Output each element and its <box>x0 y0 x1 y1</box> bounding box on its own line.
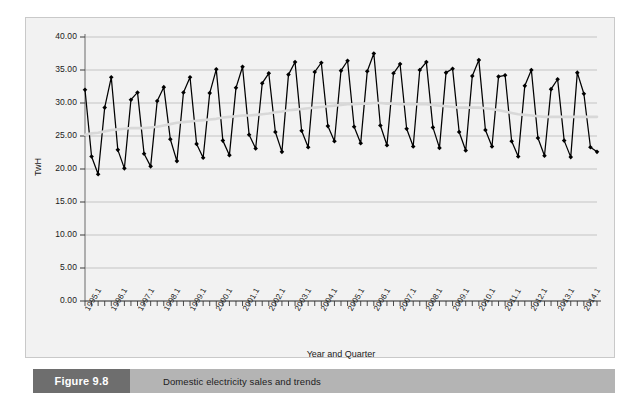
data-point <box>148 164 153 169</box>
data-point <box>89 154 94 159</box>
data-point <box>404 126 409 131</box>
data-point <box>352 124 357 129</box>
data-point <box>562 138 567 143</box>
data-point <box>483 128 488 133</box>
data-point <box>522 84 527 89</box>
data-point <box>122 166 127 171</box>
data-point <box>326 124 331 129</box>
figure-caption-text: Domestic electricity sales and trends <box>130 369 615 393</box>
data-point <box>568 155 573 160</box>
data-point <box>582 91 587 96</box>
data-point <box>207 91 212 96</box>
data-point <box>372 51 377 56</box>
data-point <box>575 70 580 75</box>
data-point <box>286 72 291 77</box>
y-tick-label: 25.00 <box>26 130 77 140</box>
data-point <box>253 146 258 151</box>
data-point <box>529 68 534 73</box>
data-point <box>378 123 383 128</box>
data-point <box>273 130 278 135</box>
figure-number: Figure 9.8 <box>33 369 130 393</box>
data-point <box>83 88 88 93</box>
data-point <box>168 137 173 142</box>
data-point <box>109 75 114 80</box>
data-point <box>280 150 285 155</box>
y-tick-label: 5.00 <box>26 262 77 272</box>
data-point <box>542 154 547 159</box>
data-point <box>503 73 508 78</box>
y-tick-label: 40.00 <box>26 31 77 41</box>
data-point <box>299 128 304 133</box>
chart-frame: 0.005.0010.0015.0020.0025.0030.0035.0040… <box>25 17 615 358</box>
data-point <box>161 85 166 90</box>
x-axis-title: Year and Quarter <box>85 349 597 359</box>
figure-caption-bar: Figure 9.8 Domestic electricity sales an… <box>33 369 615 393</box>
data-point <box>516 154 521 159</box>
data-point <box>477 58 482 63</box>
data-point <box>142 152 147 157</box>
data-point <box>496 74 501 79</box>
data-point <box>221 138 226 143</box>
data-point <box>181 90 186 95</box>
data-point <box>411 144 416 149</box>
data-point <box>227 153 232 158</box>
data-point <box>463 148 468 153</box>
y-tick-label: 30.00 <box>26 97 77 107</box>
data-point <box>431 125 436 130</box>
data-point <box>509 139 514 144</box>
data-point <box>116 148 121 153</box>
data-point <box>437 146 442 151</box>
data-point <box>102 105 107 110</box>
plot-area: 0.005.0010.0015.0020.0025.0030.0035.0040… <box>26 18 616 359</box>
y-tick-label: 35.00 <box>26 64 77 74</box>
figure-container: 0.005.0010.0015.0020.0025.0030.0035.0040… <box>0 0 641 415</box>
data-point <box>306 145 311 150</box>
data-point <box>234 86 239 91</box>
data-point <box>240 64 245 69</box>
data-point <box>201 155 206 160</box>
y-axis-title: TwH <box>33 147 43 187</box>
data-point <box>457 130 462 135</box>
y-tick-label: 15.00 <box>26 196 77 206</box>
y-tick-label: 0.00 <box>26 295 77 305</box>
data-point <box>470 74 475 79</box>
y-tick-label: 10.00 <box>26 229 77 239</box>
data-point <box>175 159 180 164</box>
data-point <box>490 144 495 149</box>
data-point <box>96 172 101 177</box>
data-point <box>332 139 337 144</box>
data-point <box>358 141 363 146</box>
data-point <box>188 75 193 80</box>
data-point <box>293 60 298 65</box>
data-point <box>194 142 199 147</box>
data-point <box>214 67 219 72</box>
data-point <box>385 143 390 148</box>
